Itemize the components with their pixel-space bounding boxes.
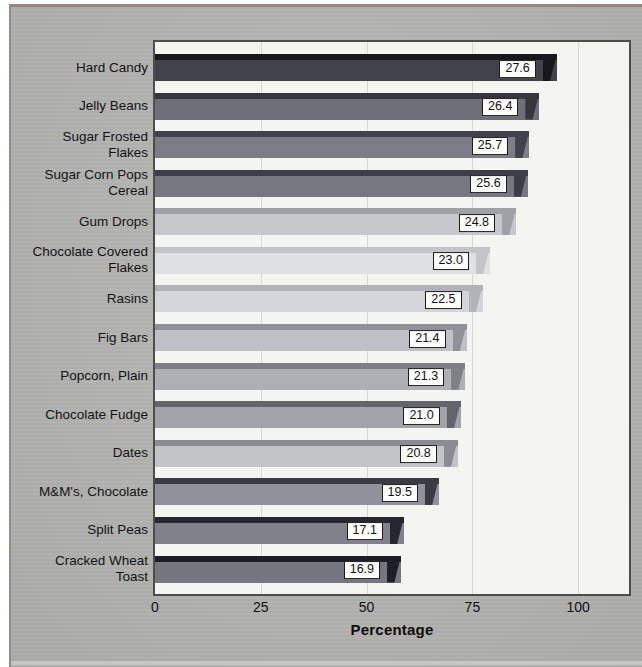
category-label: Rasins xyxy=(11,285,155,312)
category-label: Popcorn, Plain xyxy=(11,363,155,390)
value-badge: 21.0 xyxy=(403,407,439,425)
bar-track: 22.5 xyxy=(155,285,629,312)
value-badge: 17.1 xyxy=(347,523,383,541)
value-badge: 25.7 xyxy=(472,137,508,155)
category-label: Chocolate Covered Flakes xyxy=(11,247,155,274)
bar-track: 23.0 xyxy=(155,247,629,274)
x-tick-label: 75 xyxy=(465,599,481,615)
value-badge: 21.4 xyxy=(409,330,445,348)
bar-row: Sugar Corn Pops Cereal25.6 xyxy=(11,170,629,209)
x-tick-label: 25 xyxy=(253,599,269,615)
bar: 21.0 xyxy=(155,401,461,428)
x-tick-label: 100 xyxy=(567,599,590,615)
bar-row: Dates20.8 xyxy=(11,440,629,479)
bar: 21.4 xyxy=(155,324,467,351)
bar-row: Chocolate Fudge21.0 xyxy=(11,401,629,440)
bar-track: 24.8 xyxy=(155,208,629,235)
bar-track: 20.8 xyxy=(155,440,629,467)
bar-row: Hard Candy27.6 xyxy=(11,54,629,93)
bar-track: 25.6 xyxy=(155,170,629,197)
bar-track: 19.5 xyxy=(155,478,629,505)
x-tick-label: 0 xyxy=(151,599,159,615)
category-label: Sugar Corn Pops Cereal xyxy=(11,170,155,197)
bar-row: Split Peas17.1 xyxy=(11,517,629,556)
bar-track: 21.0 xyxy=(155,401,629,428)
value-badge: 26.4 xyxy=(482,98,518,116)
value-badge: 19.5 xyxy=(382,484,418,502)
bar: 22.5 xyxy=(155,285,483,312)
bar-row: Cracked Wheat Toast16.9 xyxy=(11,556,629,595)
x-axis-title: Percentage xyxy=(155,621,629,638)
value-badge: 21.3 xyxy=(408,368,444,386)
category-label: Gum Drops xyxy=(11,208,155,235)
chart-panel: Hard Candy27.6Jelly Beans26.4Sugar Frost… xyxy=(9,4,642,667)
x-axis: Percentage 0255075100 xyxy=(155,599,629,639)
bar-top-highlight xyxy=(155,54,557,60)
value-badge: 27.6 xyxy=(499,60,535,78)
value-badge: 22.5 xyxy=(425,291,461,309)
bar: 24.8 xyxy=(155,208,516,235)
category-label: Sugar Frosted Flakes xyxy=(11,131,155,158)
bar-track: 27.6 xyxy=(155,54,629,81)
bar: 19.5 xyxy=(155,478,439,505)
bar-track: 17.1 xyxy=(155,517,629,544)
category-label: Fig Bars xyxy=(11,324,155,351)
bar: 25.7 xyxy=(155,131,529,158)
bar-track: 25.7 xyxy=(155,131,629,158)
bar-row: Gum Drops24.8 xyxy=(11,208,629,247)
bar-row: Fig Bars21.4 xyxy=(11,324,629,363)
value-badge: 24.8 xyxy=(459,214,495,232)
category-label: M&M's, Chocolate xyxy=(11,478,155,505)
value-badge: 23.0 xyxy=(433,252,469,270)
value-badge: 25.6 xyxy=(470,175,506,193)
bar: 21.3 xyxy=(155,363,465,390)
bar: 23.0 xyxy=(155,247,490,274)
bar-row: Popcorn, Plain21.3 xyxy=(11,363,629,402)
bar: 16.9 xyxy=(155,556,401,583)
value-badge: 16.9 xyxy=(344,561,380,579)
bar-rows-container: Hard Candy27.6Jelly Beans26.4Sugar Frost… xyxy=(11,42,629,594)
bar-track: 16.9 xyxy=(155,556,629,583)
bar: 26.4 xyxy=(155,93,539,120)
bar-row: Chocolate Covered Flakes23.0 xyxy=(11,247,629,286)
x-tick-label: 50 xyxy=(359,599,375,615)
bar-row: Sugar Frosted Flakes25.7 xyxy=(11,131,629,170)
category-label: Chocolate Fudge xyxy=(11,401,155,428)
bar: 25.6 xyxy=(155,170,528,197)
bar: 27.6 xyxy=(155,54,557,81)
bar-row: M&M's, Chocolate19.5 xyxy=(11,478,629,517)
category-label: Hard Candy xyxy=(11,54,155,81)
bar-row: Rasins22.5 xyxy=(11,285,629,324)
category-label: Split Peas xyxy=(11,517,155,544)
bar-row: Jelly Beans26.4 xyxy=(11,93,629,132)
category-label: Cracked Wheat Toast xyxy=(11,556,155,583)
category-label: Jelly Beans xyxy=(11,93,155,120)
bar-track: 21.3 xyxy=(155,363,629,390)
bar: 20.8 xyxy=(155,440,458,467)
category-label: Dates xyxy=(11,440,155,467)
value-badge: 20.8 xyxy=(400,445,436,463)
bar-track: 21.4 xyxy=(155,324,629,351)
bar-track: 26.4 xyxy=(155,93,629,120)
bar: 17.1 xyxy=(155,517,404,544)
